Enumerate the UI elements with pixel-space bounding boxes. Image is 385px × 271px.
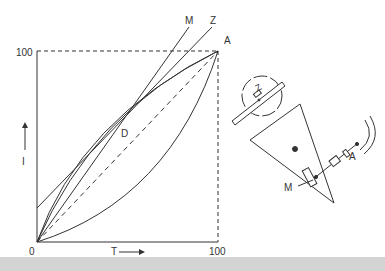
a-point-label: A [224, 35, 231, 46]
schematic [232, 76, 375, 203]
center-dot [293, 147, 298, 152]
y-axis-arrow-icon [22, 122, 28, 150]
diagram-canvas: 100 0 100 T I M Z A D Z M A [0, 0, 385, 271]
y-axis-max-label: 100 [16, 47, 33, 58]
a-arc [360, 120, 369, 150]
bottom-bar [0, 257, 385, 271]
x-axis-label: T [111, 246, 117, 257]
z-line [37, 27, 212, 208]
x-axis-max-label: 100 [209, 246, 226, 257]
m-curve-label: M [185, 15, 193, 26]
x-axis-arrow-icon [119, 249, 145, 255]
z-curve-label: Z [210, 15, 216, 26]
z-schematic-label: Z [254, 82, 264, 94]
origin-label: 0 [29, 246, 35, 257]
m-schematic-label: M [284, 182, 292, 193]
d-curve-label: D [121, 128, 128, 139]
m-line [37, 27, 189, 242]
y-axis-label: I [22, 156, 25, 167]
diagonal-dashed-line [37, 51, 218, 242]
a-schematic-label: A [349, 151, 356, 162]
